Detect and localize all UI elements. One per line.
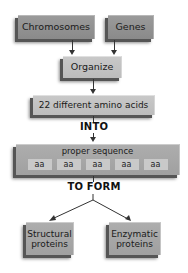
enzymatic-line1: Enzymatic bbox=[111, 229, 158, 239]
structural-line1: Structural bbox=[27, 229, 72, 239]
structural-proteins-box: Structural proteins bbox=[26, 222, 74, 255]
enzymatic-proteins-box: Enzymatic proteins bbox=[109, 222, 161, 255]
enzymatic-line2: proteins bbox=[116, 239, 153, 249]
structural-line2: proteins bbox=[31, 239, 68, 249]
